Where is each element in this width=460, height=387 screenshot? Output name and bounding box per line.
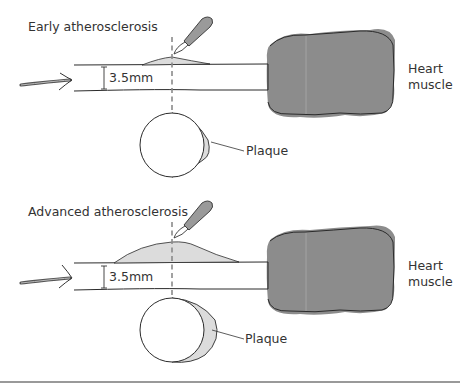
- plaque-label-early: Plaque: [246, 143, 289, 158]
- cross-section-circle-icon: [140, 113, 209, 177]
- panel-title-early: Early atherosclerosis: [28, 19, 158, 34]
- atherosclerosis-diagram: Early atherosclerosis 3.5mm: [0, 0, 460, 387]
- diameter-marker-advanced: [101, 266, 107, 288]
- heart-muscle-advanced: [265, 225, 395, 314]
- plaque-advanced: [114, 242, 239, 263]
- heart-label-advanced-line1: Heart: [408, 258, 443, 273]
- panel-title-advanced: Advanced atherosclerosis: [28, 204, 188, 219]
- artery-bottom-wall-advanced: [74, 289, 265, 290]
- heart-label-early-line2: muscle: [408, 77, 453, 92]
- plaque-early: [142, 57, 210, 65]
- diameter-label-advanced: 3.5mm: [109, 269, 153, 284]
- heart-label-advanced-line2: muscle: [408, 274, 453, 289]
- scalpel-icon: [174, 17, 213, 54]
- plaque-label-advanced: Plaque: [245, 331, 288, 346]
- blood-flow-arrow-icon: [21, 265, 72, 288]
- blood-flow-arrow-icon: [21, 73, 72, 90]
- diameter-marker-early: [101, 67, 107, 89]
- diameter-label-early: 3.5mm: [109, 70, 153, 85]
- panel-early: Early atherosclerosis 3.5mm: [21, 17, 453, 177]
- panel-advanced: Advanced atherosclerosis 3.5mm Heart: [21, 201, 453, 362]
- heart-muscle-early: [265, 29, 395, 118]
- artery-bottom-wall-early: [74, 90, 265, 91]
- heart-label-early-line1: Heart: [408, 61, 443, 76]
- cross-section-circle-icon: [140, 298, 217, 362]
- plaque-leader-early: [211, 142, 244, 151]
